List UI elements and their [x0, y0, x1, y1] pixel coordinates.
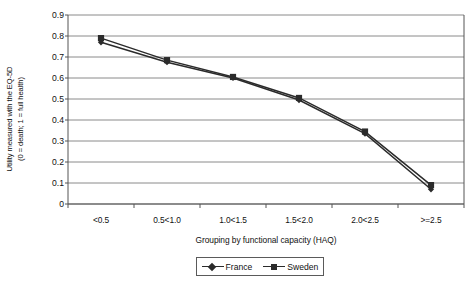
chart-legend: France Sweden: [196, 257, 324, 276]
x-axis-title: Grouping by functional capacity (HAQ): [68, 235, 464, 245]
legend-label-sweden: Sweden: [287, 262, 318, 272]
plot-area: [0, 0, 475, 290]
x-axis-tick-label: <0.5: [93, 215, 109, 225]
x-axis-tick-label: 0.5<1.0: [153, 215, 180, 225]
plot-background: [68, 15, 464, 204]
data-point-marker-sweden: [428, 182, 434, 188]
x-axis-tick-label: 2.0<2.5: [351, 215, 378, 225]
legend-label-france: France: [226, 262, 253, 272]
data-point-marker-sweden: [164, 57, 170, 63]
square-marker-icon: [263, 262, 285, 271]
diamond-marker-icon: [202, 262, 224, 271]
chart-container: Utility measured with the EQ-5D (0 = dea…: [0, 0, 475, 290]
data-point-marker-sweden: [98, 35, 104, 41]
x-axis-tick-label: >=2.5: [421, 215, 442, 225]
legend-item-france: France: [202, 262, 253, 272]
legend-item-sweden: Sweden: [263, 262, 318, 272]
x-axis-tick-label: 1.5<2.0: [285, 215, 312, 225]
data-point-marker-sweden: [230, 74, 236, 80]
x-axis-tick-label: 1.0<1.5: [219, 215, 246, 225]
data-point-marker-sweden: [296, 95, 302, 101]
data-point-marker-sweden: [362, 128, 368, 134]
